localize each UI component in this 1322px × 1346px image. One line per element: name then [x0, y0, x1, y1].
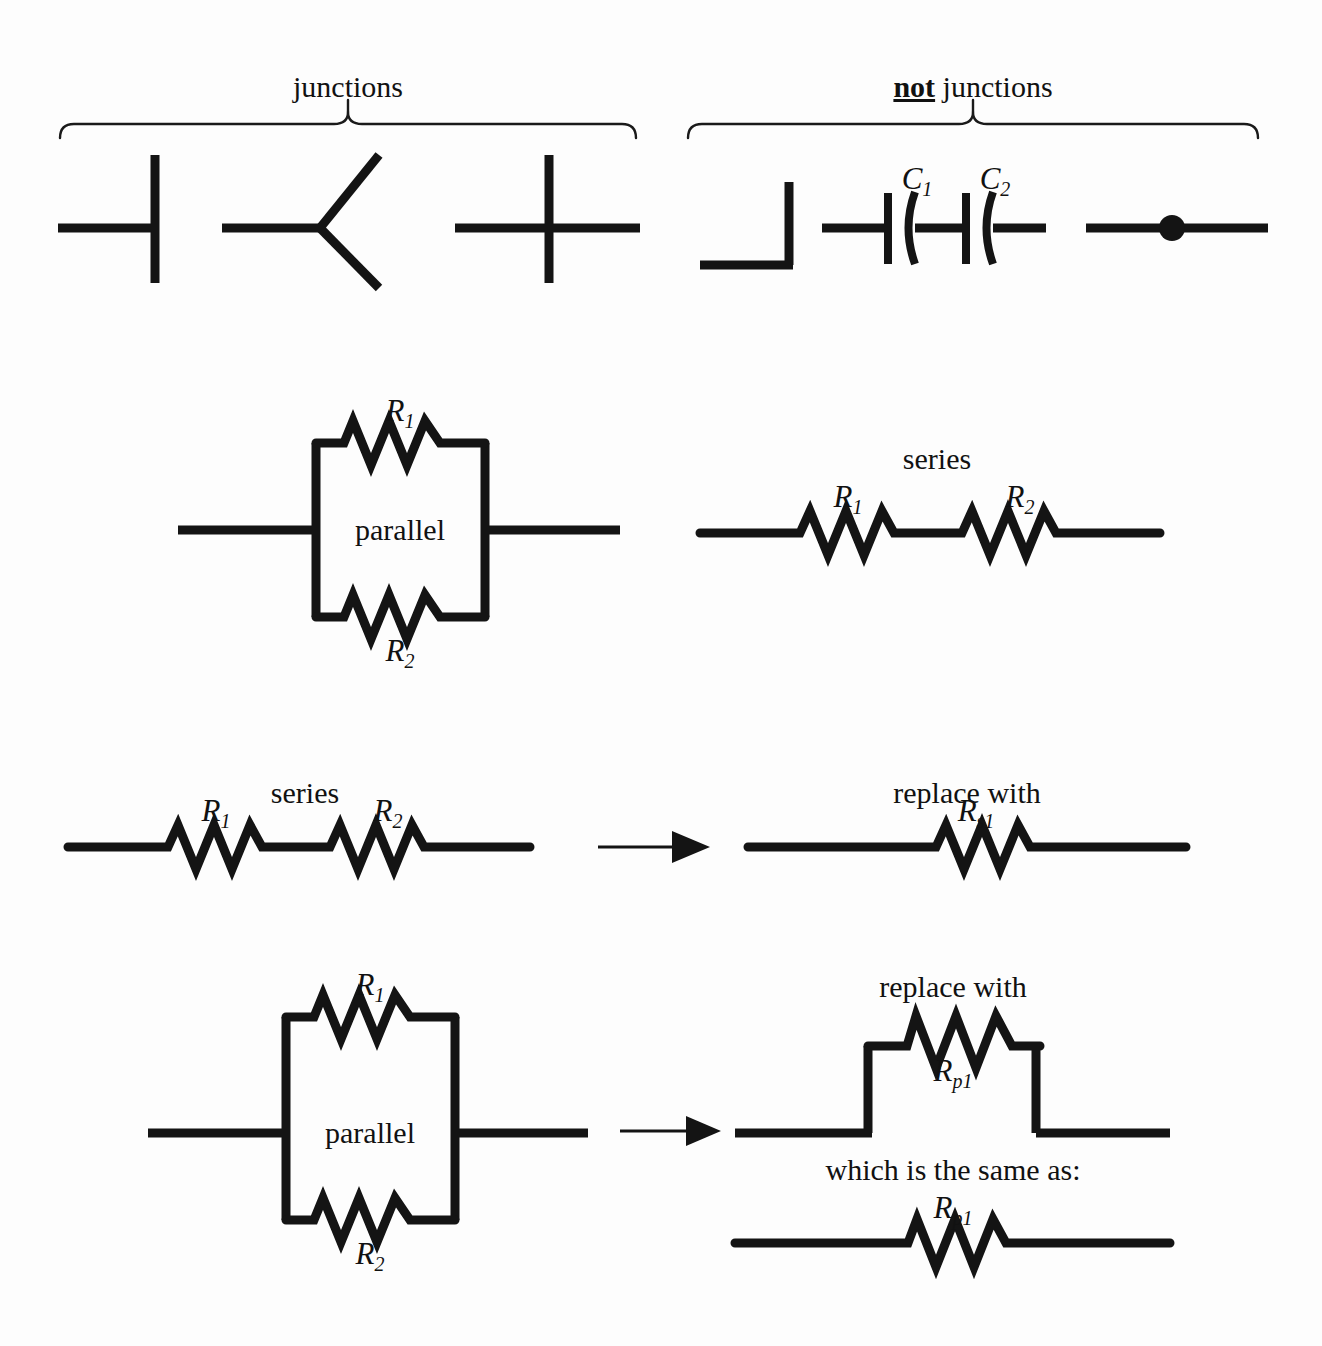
cross-junction-symbol — [455, 155, 640, 283]
series1-r1-label: R1 — [834, 481, 863, 512]
junctions-suffix: junctions — [935, 70, 1053, 103]
wire-with-dot-symbol — [1086, 215, 1268, 241]
parallel-rp1-raised-label: Rp1 — [934, 1055, 973, 1086]
parallel2-r1-label: R1 — [356, 969, 385, 1000]
junctions-heading: junctions — [293, 72, 403, 102]
parallel2-r2-label: R2 — [356, 1238, 385, 1269]
parallel-replace-with-heading: replace with — [879, 972, 1026, 1002]
same-as-heading: which is the same as: — [826, 1155, 1081, 1185]
corner-wire-symbol — [700, 182, 793, 265]
circuit-diagram-svg — [0, 0, 1322, 1346]
parallel1-r2-label: R2 — [386, 635, 415, 666]
series-circuit-2 — [68, 825, 530, 869]
series2-heading: series — [271, 778, 339, 808]
capacitor-c1-label: C1 — [902, 163, 933, 194]
series-circuit-1 — [700, 511, 1160, 555]
reduction-arrow-series — [598, 831, 710, 863]
not-emphasis: not — [893, 70, 935, 103]
series1-r2-label: R2 — [1006, 481, 1035, 512]
parallel2-box-label: parallel — [325, 1118, 415, 1148]
series-capacitors-symbol — [822, 192, 1046, 264]
figure-canvas: junctions not junctions C1 C2 R1 paralle… — [0, 0, 1322, 1346]
brace-junctions — [60, 100, 636, 138]
brace-not-junctions — [688, 100, 1258, 138]
parallel-rp1-flat-label: Rp1 — [934, 1192, 973, 1223]
series-equivalent-circuit — [748, 825, 1186, 869]
not-junctions-heading: not junctions — [893, 72, 1052, 102]
series2-r2-label: R2 — [374, 795, 403, 826]
series2-r1-label: R1 — [202, 795, 231, 826]
t-junction-symbol — [58, 155, 155, 283]
series1-heading: series — [903, 444, 971, 474]
parallel1-r1-label: R1 — [386, 395, 415, 426]
parallel1-box-label: parallel — [355, 515, 445, 545]
capacitor-c2-label: C2 — [980, 163, 1011, 194]
series-rs1-label: Rs1 — [958, 795, 995, 826]
reduction-arrow-parallel — [620, 1116, 721, 1146]
y-junction-symbol — [222, 155, 379, 288]
